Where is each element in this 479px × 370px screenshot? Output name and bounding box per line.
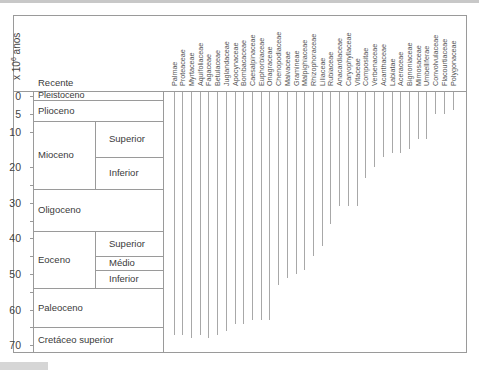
family-range-line: [174, 92, 175, 335]
family-label: Rhizophoraceae: [309, 34, 318, 86]
period-divider: [33, 189, 163, 190]
period-divider: [33, 288, 163, 289]
family-range-line: [269, 92, 270, 320]
y-tick-label: 70: [5, 339, 21, 351]
period-divider: [33, 327, 163, 328]
family-label: Proteaceae: [178, 49, 187, 86]
y-tick: [30, 167, 33, 168]
family-range-line: [243, 92, 244, 324]
family-range-line: [357, 92, 358, 206]
period-label: Eoceno: [38, 255, 70, 265]
family-label: Onagraceae: [265, 46, 274, 86]
subperiod-divider: [95, 231, 96, 288]
family-label: Verbenaceae: [370, 44, 379, 86]
family-range-line: [296, 92, 297, 274]
y-minor-tick: [30, 292, 33, 293]
family-label: Caesalpinaceae: [248, 34, 257, 86]
family-label: Betulaceae: [213, 50, 222, 86]
family-range-line: [453, 92, 454, 110]
y-tick: [30, 96, 33, 97]
period-label: Oligoceno: [38, 205, 81, 215]
y-tick: [30, 114, 33, 115]
subperiod-divider: [95, 121, 96, 189]
y-tick-label: 20: [5, 161, 21, 173]
family-label: Fagaceae: [204, 54, 213, 86]
family-range-line: [339, 92, 340, 206]
family-range-line: [217, 92, 218, 335]
subperiod-label: Inferior: [109, 274, 139, 284]
family-range-line: [200, 92, 201, 335]
y-minor-tick: [30, 221, 33, 222]
family-label: Myrtaceae: [187, 52, 196, 86]
y-axis-title: x 106 anos: [10, 33, 22, 80]
y-tick-label: 0: [5, 90, 21, 102]
family-range-line: [392, 92, 393, 153]
family-label: Malvaceae: [283, 51, 292, 86]
family-range-line: [261, 92, 262, 320]
subperiod-label: Inferior: [109, 168, 139, 178]
family-range-line: [191, 92, 192, 338]
family-range-line: [348, 92, 349, 206]
period-label: Mioceno: [38, 150, 74, 160]
family-range-line: [365, 92, 366, 178]
family-label: Juglandaceae: [222, 41, 231, 86]
family-range-line: [426, 92, 427, 139]
family-range-line: [226, 92, 227, 331]
family-range-line: [330, 92, 331, 224]
period-label: Paleoceno: [38, 303, 83, 313]
family-label: Caryophyllaceae: [344, 32, 353, 86]
y-tick-label: 30: [5, 197, 21, 209]
family-label: Acanthaceae: [379, 44, 388, 86]
family-range-line: [374, 92, 375, 167]
geology-column-divider: [163, 91, 164, 352]
y-tick-label: 10: [5, 126, 21, 138]
y-tick: [30, 310, 33, 311]
family-label: Convolvulaceae: [431, 35, 440, 86]
family-range-line: [418, 92, 419, 139]
family-label: Bignoniaceae: [405, 42, 414, 86]
y-tick: [30, 238, 33, 239]
y-tick-label: 60: [5, 304, 21, 316]
subperiod-label: Médio: [109, 258, 135, 268]
y-tick-label: 5: [5, 108, 21, 120]
family-range-line: [252, 92, 253, 320]
period-label: Plioceno: [38, 106, 74, 116]
family-range-line: [383, 92, 384, 157]
family-label: Chenopodiaceae: [274, 32, 283, 86]
family-label: Polygonaceae: [449, 40, 458, 86]
header-label-recente: Recente: [38, 78, 73, 88]
family-label: Anacardiaceae: [335, 38, 344, 86]
family-label: Flacourtiaceae: [440, 39, 449, 86]
subperiod-line: [95, 270, 163, 271]
family-label: Rubiaceae: [326, 52, 335, 86]
family-label: Umbelliferae: [422, 46, 431, 86]
family-range-line: [435, 92, 436, 114]
family-range-line: [287, 92, 288, 278]
period-divider: [33, 231, 163, 232]
family-range-line: [278, 92, 279, 285]
y-minor-tick: [30, 256, 33, 257]
family-range-line: [444, 92, 445, 114]
y-tick: [30, 345, 33, 346]
family-label: Bombacaceae: [239, 40, 248, 86]
period-divider: [33, 121, 163, 122]
subperiod-line: [95, 157, 163, 158]
family-range-line: [304, 92, 305, 270]
period-label: Cretáceo superior: [38, 335, 114, 345]
family-range-line: [322, 92, 323, 246]
bottom-tag: [0, 362, 48, 370]
subperiod-label: Superior: [109, 134, 145, 144]
y-tick: [30, 274, 33, 275]
y-tick: [30, 203, 33, 204]
axis-column-divider: [33, 91, 34, 352]
y-tick: [30, 132, 33, 133]
family-range-line: [313, 92, 314, 256]
period-label: Pleistoceno: [38, 91, 85, 100]
family-label: Aceraceae: [396, 52, 405, 86]
family-label: Malpighiaceae: [300, 40, 309, 86]
y-tick-label: 50: [5, 268, 21, 280]
family-range-line: [409, 92, 410, 149]
top-border: [0, 0, 479, 3]
family-range-line: [182, 92, 183, 335]
subperiod-label: Superior: [109, 239, 145, 249]
